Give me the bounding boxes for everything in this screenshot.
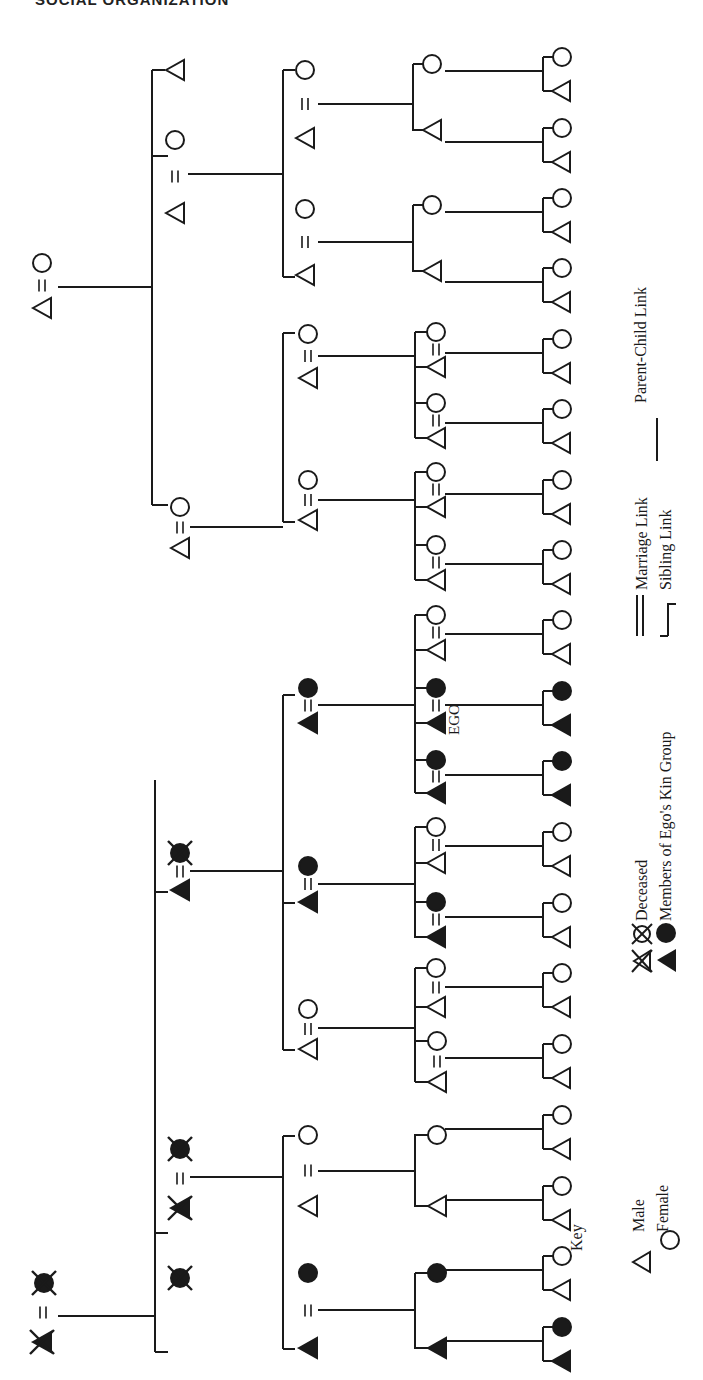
male-key-icon <box>633 1252 650 1272</box>
deceased-triangle-icon <box>632 950 652 972</box>
legend-sibling-link-label: Sibling Link <box>657 510 675 590</box>
legend-female-label: Female <box>654 1185 672 1232</box>
legend-marriage-link-label: Marriage Link <box>633 497 651 590</box>
sibling-link-icon <box>668 604 676 636</box>
legend-key-label: Key <box>568 1224 586 1251</box>
legend-male-label: Male <box>630 1199 648 1232</box>
legend-deceased-label: Deceased <box>633 860 651 921</box>
kin-triangle-icon <box>657 949 676 972</box>
female-key-icon <box>661 1231 679 1249</box>
kin-circle-icon <box>656 923 676 943</box>
legend-symbols <box>0 0 703 1380</box>
deceased-circle-icon <box>632 924 652 944</box>
legend-kin-group-label: Members of Ego's Kin Group <box>657 731 675 921</box>
legend-parent-child-link-label: Parent-Child Link <box>632 287 650 403</box>
